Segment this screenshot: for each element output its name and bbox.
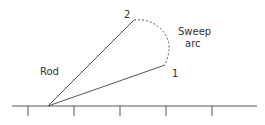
rod-sweep-diagram: Rod 2 1 Sweep arc: [0, 0, 265, 125]
sweep-arc-label-line2: arc: [185, 38, 201, 49]
rod-position-2: [48, 20, 134, 106]
sweep-arc-label-line1: Sweep: [178, 26, 211, 37]
rod-position-1: [48, 65, 165, 106]
point-2-label: 2: [124, 9, 130, 20]
rod-label: Rod: [40, 66, 59, 77]
baseline-ticks: [28, 106, 212, 116]
point-1-label: 1: [172, 68, 178, 79]
sweep-arc: [134, 20, 169, 65]
